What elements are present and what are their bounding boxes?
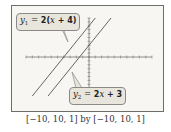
callout-pointers: [60, 25, 82, 88]
callout-y1: y1 = 2(x + 4): [16, 13, 80, 31]
window-caption: [−10, 10, 1] by [−10, 10, 1]: [0, 114, 171, 124]
callout-y2: y2 = 2x + 3: [69, 87, 126, 105]
y1-expr-a: 2(: [41, 16, 50, 25]
y1-eq: =: [28, 15, 41, 25]
y1-expr-b: + 4): [55, 16, 77, 25]
y2-eq: =: [81, 89, 94, 99]
y2-expr-b: + 3: [104, 90, 122, 99]
